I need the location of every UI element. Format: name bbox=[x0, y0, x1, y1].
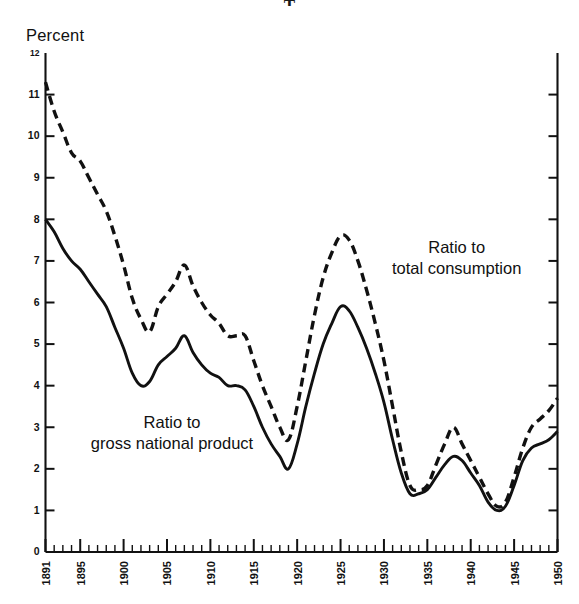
x-axis-tick-label: 1945 bbox=[509, 561, 521, 585]
x-axis-tick-label: 1895 bbox=[75, 561, 87, 585]
x-axis-tick-label: 1920 bbox=[292, 561, 304, 585]
chart-figure: T Percent 121110987654321018911895190019… bbox=[0, 0, 579, 604]
annotation-total-consumption: Ratio to total consumption bbox=[392, 237, 521, 279]
y-axis-tick-label: 2 bbox=[34, 462, 40, 474]
y-axis-tick-label: 9 bbox=[34, 171, 40, 183]
y-axis-tick-label: 6 bbox=[34, 296, 40, 308]
x-axis-tick-label: 1935 bbox=[422, 561, 434, 585]
y-axis-tick-label: 11 bbox=[28, 88, 39, 100]
x-axis-tick-label: 1910 bbox=[205, 561, 217, 585]
y-axis-tick-label: 1 bbox=[34, 504, 40, 516]
x-axis-tick-label: 1891 bbox=[40, 561, 52, 585]
y-axis-tick-label: 0 bbox=[34, 545, 40, 557]
y-axis-tick-label: 12 bbox=[30, 48, 40, 58]
line-chart-plot: 1211109876543210189118951900190519101915… bbox=[0, 0, 579, 604]
y-axis-tick-label: 4 bbox=[34, 379, 40, 391]
x-axis-tick-label: 1925 bbox=[335, 561, 347, 585]
x-axis-tick-label: 1915 bbox=[248, 561, 260, 585]
x-axis-tick-label: 1900 bbox=[118, 561, 130, 585]
y-axis-tick-label: 3 bbox=[34, 421, 40, 433]
axes-group: 1211109876543210189118951900190519101915… bbox=[28, 48, 564, 586]
annotation-gross-national-product: Ratio to gross national product bbox=[62, 412, 282, 454]
y-axis-tick-label: 8 bbox=[34, 213, 40, 225]
x-axis-tick-label: 1905 bbox=[161, 561, 173, 585]
x-axis-tick-label: 1950 bbox=[552, 561, 564, 585]
y-axis-tick-label: 5 bbox=[34, 337, 40, 349]
x-axis-tick-label: 1930 bbox=[378, 561, 390, 585]
y-axis-tick-label: 10 bbox=[28, 129, 40, 141]
y-axis-tick-label: 7 bbox=[34, 254, 40, 266]
x-axis-tick-label: 1940 bbox=[465, 561, 477, 585]
